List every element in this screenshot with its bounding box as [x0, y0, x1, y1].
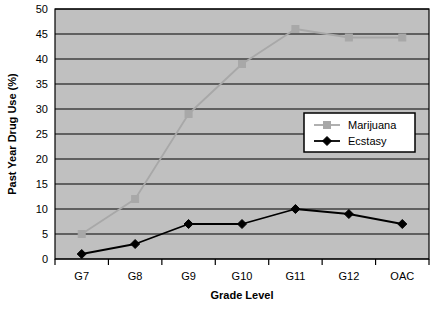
legend-marker-marijuana [324, 122, 331, 129]
y-tick-label-10: 50 [36, 3, 48, 15]
y-tick-label-8: 40 [36, 53, 48, 65]
x-tick-label-oac: OAC [390, 270, 414, 282]
x-tick-label-g11: G11 [285, 270, 305, 282]
x-tick-label-g10: G10 [232, 270, 253, 282]
y-tick-label-2: 10 [36, 203, 48, 215]
line-chart: 05101520253035404550G7G8G9G10G11G12OACGr… [0, 0, 442, 320]
x-tick-label-g7: G7 [74, 270, 89, 282]
data-point-marijuana-g8 [132, 196, 139, 203]
y-tick-label-9: 45 [36, 28, 48, 40]
y-tick-label-1: 5 [42, 228, 48, 240]
y-tick-label-6: 30 [36, 103, 48, 115]
x-tick-label-g12: G12 [338, 270, 359, 282]
chart-container: 05101520253035404550G7G8G9G10G11G12OACGr… [0, 0, 442, 320]
data-point-marijuana-oac [399, 34, 406, 41]
legend-label-marijuana: Marijuana [348, 119, 397, 131]
data-point-marijuana-g7 [78, 231, 85, 238]
y-tick-label-4: 20 [36, 153, 48, 165]
data-point-marijuana-g12 [345, 34, 352, 41]
y-tick-label-0: 0 [42, 253, 48, 265]
y-axis-title: Past Year Drug Use (%) [6, 73, 18, 195]
data-point-marijuana-g11 [292, 26, 299, 33]
x-axis-title: Grade Level [211, 289, 274, 301]
legend-label-ecstasy: Ecstasy [348, 135, 387, 147]
data-point-marijuana-g9 [185, 111, 192, 118]
x-tick-label-g8: G8 [128, 270, 143, 282]
y-tick-label-5: 25 [36, 128, 48, 140]
y-tick-label-3: 15 [36, 178, 48, 190]
data-point-marijuana-g10 [239, 61, 246, 68]
y-tick-label-7: 35 [36, 78, 48, 90]
x-tick-label-g9: G9 [181, 270, 196, 282]
